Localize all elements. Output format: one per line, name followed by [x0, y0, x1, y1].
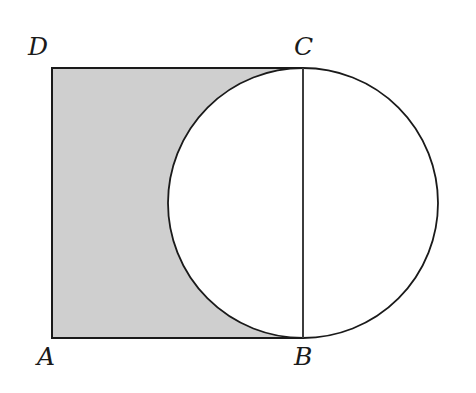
- vertex-label-C: C: [294, 34, 313, 59]
- vertex-label-D: D: [28, 34, 48, 59]
- vertex-label-B: B: [294, 344, 312, 369]
- geometry-figure: D C A B: [0, 0, 476, 393]
- geometry-canvas: [0, 0, 476, 393]
- vertex-label-A: A: [37, 344, 55, 369]
